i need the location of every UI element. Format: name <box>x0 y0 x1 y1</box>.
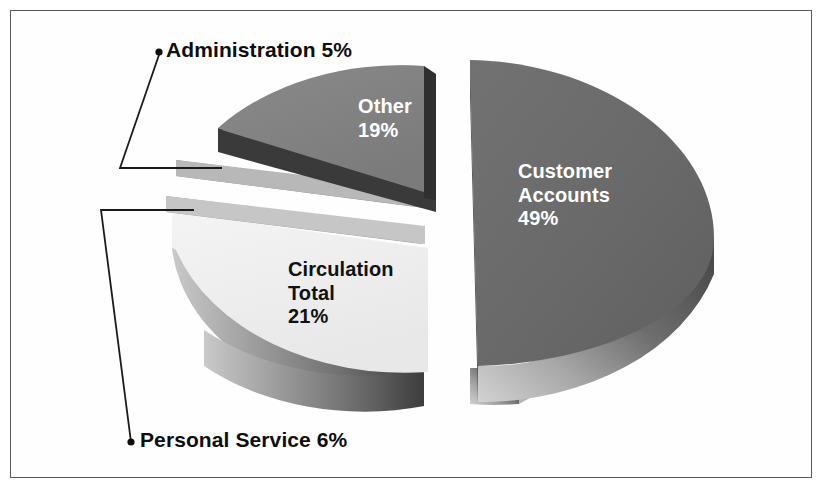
pie-chart-graphic <box>0 0 836 496</box>
slice-label-personal-service: Personal Service 6% <box>140 428 347 452</box>
pie-slice-customer-accounts[interactable] <box>470 60 714 405</box>
slice-label-circulation-total: Circulation Total 21% <box>288 258 394 329</box>
slice-label-administration: Administration 5% <box>166 38 352 62</box>
chart-figure: Customer Accounts 49% Other 19% Circulat… <box>0 0 836 496</box>
slice-label-customer-accounts: Customer Accounts 49% <box>518 160 612 231</box>
slice-label-other: Other 19% <box>358 95 412 142</box>
callout-dot-personal-service <box>127 438 134 445</box>
callout-dot-administration <box>155 48 162 55</box>
callout-leader-administration <box>120 48 222 168</box>
